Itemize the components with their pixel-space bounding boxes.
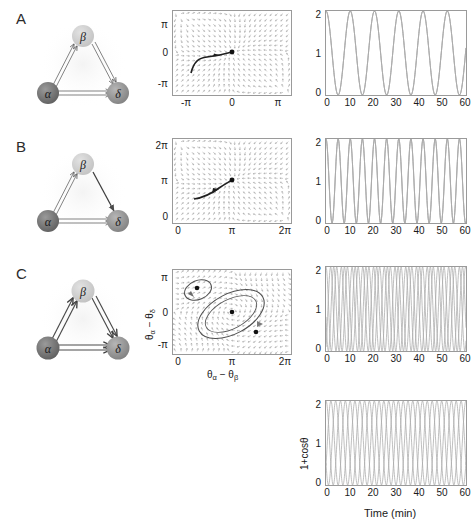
time-plot-b-svg	[326, 139, 466, 223]
xtick-5: 50	[436, 353, 447, 364]
xtick-0: 0	[324, 487, 330, 498]
time-a-ytick-0: 0	[306, 87, 321, 98]
xtick-6: 60	[459, 97, 470, 108]
phase-c-ylabel-sub2: δ	[148, 309, 157, 313]
time-c-ytick-0: 0	[306, 343, 321, 354]
time-plot-b	[325, 138, 467, 224]
phase-b-ytick-2: 0	[148, 211, 168, 222]
xtick-5: 50	[436, 225, 447, 236]
phase-c-ylabel-dash: −	[144, 319, 155, 330]
phase-c-ylabel-theta2: θ	[144, 313, 155, 319]
phase-c-ytick-0: π	[151, 272, 168, 283]
xtick-0: 0	[324, 225, 330, 236]
phase-b-xtick-2: 2π	[279, 225, 291, 236]
phase-b-xtick-1: π	[229, 225, 236, 236]
bottom-ylabel: 1+cosθ	[299, 437, 310, 470]
fixed-point-a	[230, 50, 235, 55]
fixed-point-c-2	[230, 310, 235, 315]
network-svg-c: α δ β	[18, 269, 148, 369]
node-label-alpha-c: α	[45, 342, 52, 356]
xtick-4: 40	[413, 225, 424, 236]
phase-plot-c-svg	[173, 270, 291, 354]
xtick-1: 10	[344, 487, 355, 498]
phase-plot-c	[172, 269, 292, 355]
xtick-3: 30	[390, 97, 401, 108]
phase-plot-a	[172, 10, 292, 96]
fixed-point-b	[230, 178, 235, 183]
time-a-ytick-2: 2	[306, 9, 321, 20]
phase-a-ytick-0: π	[151, 19, 168, 30]
bottom-xlabel: Time (min)	[364, 507, 416, 519]
xtick-2: 20	[367, 97, 378, 108]
bottom-time-plot-svg	[326, 401, 466, 485]
node-label-delta-c: δ	[115, 342, 121, 356]
xtick-1: 10	[344, 97, 355, 108]
xtick-6: 60	[459, 225, 470, 236]
phase-a-xtick-1: 0	[229, 97, 235, 108]
phase-plot-b	[172, 138, 292, 224]
xtick-4: 40	[413, 97, 424, 108]
node-label-beta-a: β	[79, 30, 86, 44]
phase-c-ylabel-theta1: θ	[144, 334, 155, 340]
xtick-4: 40	[413, 353, 424, 364]
xtick-6: 60	[459, 353, 470, 364]
xtick-5: 50	[436, 97, 447, 108]
network-diagram-c: α δ β	[18, 269, 148, 369]
phase-a-xtick-2: π	[275, 97, 282, 108]
phase-c-xtick-2: 2π	[279, 356, 291, 367]
node-label-delta-b: δ	[115, 215, 121, 229]
bottom-ytick-0: 0	[306, 477, 321, 488]
xtick-0: 0	[324, 97, 330, 108]
trace-2	[326, 11, 466, 95]
time-b-ytick-2: 2	[306, 137, 321, 148]
time-plot-a	[325, 10, 467, 96]
time-c-ytick-1: 1	[306, 304, 321, 315]
time-b-ytick-0: 0	[306, 215, 321, 226]
node-label-beta-c: β	[79, 285, 86, 299]
node-label-beta-b: β	[79, 158, 86, 172]
phase-c-xlabel: θα − θβ	[207, 369, 238, 382]
fixed-point-c-1	[195, 286, 200, 291]
phase-b-xtick-0: 0	[175, 225, 181, 236]
xtick-3: 30	[390, 225, 401, 236]
network-svg-b: α δ β	[18, 142, 148, 242]
phase-c-xtick-1: π	[229, 356, 236, 367]
bottom-ytick-2: 2	[306, 399, 321, 410]
phase-a-ytick-2: -π	[151, 78, 168, 89]
phase-c-xlabel-sub2: β	[234, 373, 238, 382]
phase-b-ytick-0: 2π	[148, 140, 168, 151]
phase-c-xtick-0: 0	[175, 356, 181, 367]
phase-plot-a-svg	[173, 11, 291, 95]
time-b-ytick-1: 1	[306, 176, 321, 187]
time-a-ytick-1: 1	[306, 48, 321, 59]
phase-b-ytick-1: π	[148, 175, 168, 186]
xtick-1: 10	[344, 353, 355, 364]
xtick-2: 20	[367, 487, 378, 498]
phase-c-ylabel: θα − θδ	[144, 309, 157, 340]
network-diagram-a: α δ β	[18, 14, 148, 114]
xtick-1: 10	[344, 225, 355, 236]
time-plot-c	[325, 266, 467, 352]
network-diagram-b: α δ β	[18, 142, 148, 242]
time-c-ytick-2: 2	[306, 265, 321, 276]
phase-plot-b-svg	[173, 139, 291, 223]
xtick-4: 40	[413, 487, 424, 498]
xtick-3: 30	[390, 353, 401, 364]
xtick-5: 50	[436, 487, 447, 498]
time-plot-c-svg	[326, 267, 466, 351]
network-svg-a: α δ β	[18, 14, 148, 114]
xtick-0: 0	[324, 353, 330, 364]
phase-c-xlabel-dash: −	[217, 369, 228, 380]
xtick-2: 20	[367, 225, 378, 236]
node-label-delta-a: δ	[115, 87, 121, 101]
xtick-2: 20	[367, 353, 378, 364]
phase-a-xtick-0: -π	[181, 97, 191, 108]
fixed-point-c-3	[254, 330, 259, 335]
trace-2	[326, 139, 466, 223]
node-label-alpha-a: α	[45, 87, 52, 101]
phase-a-ytick-1: 0	[151, 47, 168, 58]
xtick-6: 60	[459, 487, 470, 498]
phase-c-ytick-2: -π	[151, 339, 168, 350]
phase-c-ylabel-sub1: α	[148, 330, 157, 334]
bottom-time-plot	[325, 400, 467, 486]
